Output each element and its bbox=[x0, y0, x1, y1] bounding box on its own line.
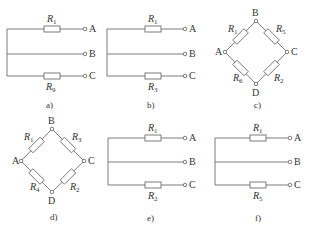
terminal-c bbox=[288, 183, 292, 187]
node-b bbox=[50, 127, 54, 131]
caption-d: d) bbox=[50, 212, 58, 222]
panel-f: A B C R1 R5 f) bbox=[215, 122, 302, 223]
label-b: B bbox=[252, 7, 259, 18]
label-b: B bbox=[294, 156, 301, 167]
resistor-top bbox=[145, 26, 161, 32]
label-r-bottom: R3 bbox=[147, 81, 158, 94]
label-r1: R1 bbox=[23, 131, 34, 144]
caption-b: b) bbox=[147, 100, 155, 110]
label-r6: R6 bbox=[232, 72, 243, 85]
panel-a: A B C R1 R9 a) bbox=[7, 13, 97, 110]
label-r1: R1 bbox=[227, 23, 238, 36]
label-r3: R3 bbox=[71, 131, 82, 144]
label-d: D bbox=[48, 195, 55, 206]
node-a bbox=[19, 159, 23, 163]
terminal-b bbox=[288, 160, 292, 164]
label-a: A bbox=[12, 155, 20, 166]
label-r-bottom: R5 bbox=[252, 190, 263, 203]
caption-c: c) bbox=[254, 100, 261, 110]
label-c: C bbox=[189, 70, 196, 81]
terminal-a bbox=[83, 27, 87, 31]
label-a: A bbox=[294, 132, 302, 143]
resistor-bottom bbox=[44, 73, 60, 79]
caption-a: a) bbox=[46, 100, 53, 110]
label-r-top: R1 bbox=[147, 13, 158, 26]
terminal-b bbox=[183, 160, 187, 164]
label-r-bottom: R2 bbox=[147, 190, 158, 203]
label-r5: R5 bbox=[275, 23, 286, 36]
label-a: A bbox=[189, 132, 197, 143]
caption-f: f) bbox=[255, 213, 261, 223]
panel-c: B A C D R1 R5 R2 R6 c) bbox=[215, 7, 298, 110]
node-c bbox=[285, 50, 289, 54]
panel-e: A B C R1 R2 e) bbox=[108, 122, 197, 223]
panel-b: A B C R1 R3 b) bbox=[107, 13, 197, 110]
label-b: B bbox=[48, 115, 55, 126]
label-c: C bbox=[88, 155, 95, 166]
terminal-b bbox=[83, 52, 87, 56]
label-c: C bbox=[189, 179, 196, 190]
label-d: D bbox=[252, 87, 259, 98]
resistor-bottom bbox=[145, 182, 161, 188]
node-b bbox=[254, 19, 258, 23]
label-r-top: R1 bbox=[252, 122, 263, 135]
label-b: B bbox=[189, 48, 196, 59]
node-c bbox=[82, 159, 86, 163]
label-r-top: R1 bbox=[46, 13, 57, 26]
terminal-a bbox=[183, 136, 187, 140]
node-d bbox=[50, 190, 54, 194]
label-r-bottom: R9 bbox=[45, 81, 56, 94]
label-a: A bbox=[215, 46, 223, 57]
label-b: B bbox=[89, 48, 96, 59]
label-r-top: R1 bbox=[147, 122, 158, 135]
terminal-b bbox=[183, 52, 187, 56]
terminal-a bbox=[183, 27, 187, 31]
terminal-c bbox=[83, 74, 87, 78]
resistor-top bbox=[145, 135, 161, 141]
circuit-diagrams: A B C R1 R9 a) A B C R1 R3 b) bbox=[0, 0, 310, 231]
terminal-a bbox=[288, 136, 292, 140]
node-d bbox=[254, 82, 258, 86]
label-c: C bbox=[89, 70, 96, 81]
label-c: C bbox=[294, 179, 301, 190]
label-c: C bbox=[291, 46, 298, 57]
label-r2: R2 bbox=[69, 181, 80, 194]
resistor-top bbox=[44, 26, 60, 32]
label-b: B bbox=[189, 156, 196, 167]
resistor-top bbox=[250, 135, 266, 141]
panel-d: B A C D R1 R3 R2 R4 d) bbox=[12, 115, 95, 222]
terminal-c bbox=[183, 183, 187, 187]
label-r2: R2 bbox=[273, 72, 284, 85]
resistor-bottom bbox=[145, 73, 161, 79]
resistor-bottom bbox=[250, 182, 266, 188]
node-a bbox=[223, 50, 227, 54]
label-a: A bbox=[89, 23, 97, 34]
terminal-c bbox=[183, 74, 187, 78]
caption-e: e) bbox=[147, 213, 154, 223]
label-a: A bbox=[189, 23, 197, 34]
